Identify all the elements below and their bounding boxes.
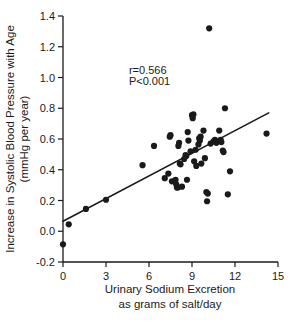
- data-point: [216, 127, 222, 133]
- y-tick-label-0: -0.2: [36, 256, 55, 268]
- data-point: [167, 132, 173, 138]
- data-point: [60, 241, 66, 247]
- data-point: [202, 155, 208, 161]
- data-point: [222, 105, 228, 111]
- data-point: [165, 170, 171, 176]
- data-point: [179, 184, 185, 190]
- x-axis-title-line1: Urinary Sodium Excretion: [105, 283, 235, 295]
- y-axis-ticks: [58, 16, 63, 262]
- data-point: [190, 111, 196, 117]
- x-tick-label-4: 12: [229, 270, 241, 282]
- data-point: [66, 221, 72, 227]
- data-point: [185, 129, 191, 135]
- data-point: [103, 197, 109, 203]
- data-point: [263, 131, 269, 137]
- data-point: [220, 149, 226, 155]
- y-tick-label-2: 0.2: [40, 195, 55, 207]
- y-tick-label-3: 0.4: [40, 164, 55, 176]
- x-axis-title-line2: as grams of salt/day: [119, 298, 222, 310]
- scatter-plot-figure: -0.20.00.20.40.60.81.01.21.4 03691215 r=…: [0, 0, 298, 323]
- x-axis-ticks: [63, 262, 278, 267]
- data-point: [151, 143, 157, 149]
- y-tick-label-8: 1.4: [40, 10, 55, 22]
- y-tick-label-1: 0.0: [40, 225, 55, 237]
- data-point: [198, 134, 204, 140]
- data-point: [139, 162, 145, 168]
- data-point: [176, 140, 182, 146]
- y-axis-title-line2: (mmHg per year): [18, 95, 30, 182]
- data-point: [206, 25, 212, 31]
- data-point: [184, 177, 190, 183]
- y-axis-title-line1: Increase in Systolic Blood Pressure with…: [4, 25, 16, 253]
- y-tick-label-6: 1.0: [40, 72, 55, 84]
- data-point: [205, 190, 211, 196]
- x-tick-label-0: 0: [60, 270, 66, 282]
- pvalue-annotation: P<0.001: [129, 75, 170, 87]
- x-axis-tick-labels: 03691215: [60, 270, 284, 282]
- data-point: [200, 127, 206, 133]
- x-tick-label-3: 9: [189, 270, 195, 282]
- data-point: [227, 168, 233, 174]
- data-point: [198, 161, 204, 167]
- data-point: [83, 206, 89, 212]
- data-point: [185, 137, 191, 143]
- data-point: [192, 147, 198, 153]
- data-point: [177, 161, 183, 167]
- x-tick-label-1: 3: [103, 270, 109, 282]
- data-point: [204, 198, 210, 204]
- data-point: [183, 153, 189, 159]
- y-tick-label-4: 0.6: [40, 133, 55, 145]
- chart-canvas: -0.20.00.20.40.60.81.01.21.4 03691215 r=…: [0, 0, 298, 323]
- data-point: [218, 139, 224, 145]
- x-tick-label-2: 6: [146, 270, 152, 282]
- data-point: [225, 191, 231, 197]
- y-tick-label-5: 0.8: [40, 102, 55, 114]
- y-tick-label-7: 1.2: [40, 41, 55, 53]
- x-tick-label-5: 15: [272, 270, 284, 282]
- y-axis-tick-labels: -0.20.00.20.40.60.81.01.21.4: [36, 10, 55, 268]
